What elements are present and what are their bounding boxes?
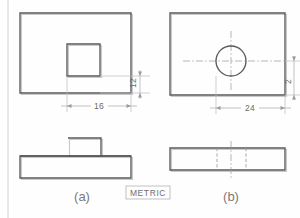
drawing-sheet: 12 16 (a) [0,0,300,218]
dim-label-2: 2 [283,79,293,84]
view-a-boss [68,138,101,157]
view-a-base-plate [20,156,131,178]
view-a-outer-rectangle [20,13,131,93]
dim-label-12: 12 [128,78,138,88]
view-b-base-plate [170,148,285,170]
dim-label-16: 16 [94,101,104,111]
view-b-front [170,141,287,180]
view-a-top [20,13,133,95]
drawing-canvas: 12 16 (a) [0,0,300,218]
view-b-outer-rectangle [170,13,285,95]
view-a-front [20,138,133,180]
view-a-caption: (a) [74,189,90,204]
view-b-top [170,13,287,97]
view-a-square-hole [67,44,100,76]
metric-label-text: METRIC [130,188,166,198]
metric-label: METRIC [126,186,170,199]
view-b-caption: (b) [223,189,239,204]
dim-label-24: 24 [245,103,255,113]
